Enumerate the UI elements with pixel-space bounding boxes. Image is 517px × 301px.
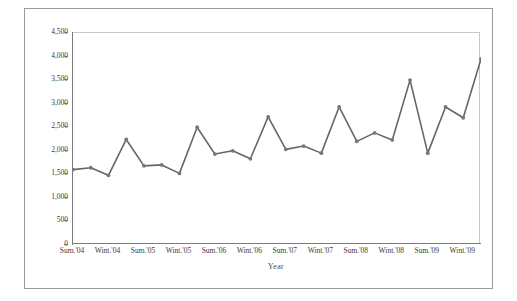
y-tick-label: 3,000 — [28, 99, 68, 107]
x-tick-label: Sum.'06 — [202, 246, 226, 256]
y-tick-mark — [64, 126, 68, 127]
plot-area — [72, 32, 480, 244]
series-line — [73, 59, 481, 175]
y-tick-mark — [64, 56, 68, 57]
y-tick-mark — [64, 79, 68, 80]
y-tick-mark — [64, 197, 68, 198]
y-tick-mark — [64, 150, 68, 151]
y-tick-label: 4,000 — [28, 52, 68, 60]
data-point-marker — [213, 152, 217, 156]
y-tick-mark — [64, 244, 68, 245]
data-point-marker — [355, 139, 359, 143]
data-point-marker — [195, 125, 199, 129]
data-point-marker — [266, 115, 270, 119]
y-tick-label: 2,000 — [28, 146, 68, 154]
data-point-marker — [408, 78, 412, 82]
data-point-marker — [373, 131, 377, 135]
x-tick-label: Wint.'07 — [308, 246, 333, 256]
data-point-marker — [284, 147, 288, 151]
data-point-marker — [248, 157, 252, 161]
data-point-marker — [426, 151, 430, 155]
data-point-marker — [73, 168, 75, 172]
x-axis-tick-labels: Sum.'04Wint.'04Sum.'05Wint.'05Sum.'06Win… — [72, 246, 480, 260]
x-tick-label: Sum.'09 — [415, 246, 439, 256]
x-tick-label: Sum.'04 — [60, 246, 84, 256]
x-tick-label: Wint.'08 — [379, 246, 404, 256]
data-point-marker — [319, 151, 323, 155]
data-point-marker — [479, 57, 481, 61]
y-tick-label: 1,000 — [28, 193, 68, 201]
y-tick-label: 4,500 — [28, 28, 68, 36]
data-point-marker — [160, 163, 164, 167]
x-tick-label: Sum.'05 — [131, 246, 155, 256]
data-point-marker — [124, 138, 128, 142]
x-tick-label: Wint.'04 — [95, 246, 120, 256]
data-point-marker — [178, 171, 182, 175]
data-point-marker — [461, 116, 465, 120]
sales-line-series — [73, 33, 481, 245]
y-tick-label: 500 — [28, 216, 68, 224]
x-tick-label: Wint.'05 — [166, 246, 191, 256]
data-point-marker — [107, 173, 111, 177]
data-point-marker — [390, 138, 394, 142]
chart-figure: Sales in Millions 4,5004,0003,5003,0002,… — [0, 0, 517, 301]
data-point-marker — [444, 105, 448, 109]
x-tick-label: Sum.'07 — [273, 246, 297, 256]
data-point-marker — [302, 144, 306, 148]
y-tick-label: 3,500 — [28, 75, 68, 83]
y-tick-mark — [64, 103, 68, 104]
data-point-marker — [337, 105, 341, 109]
x-axis-title: Year — [72, 262, 480, 271]
x-tick-label: Wint.'06 — [237, 246, 262, 256]
y-tick-mark — [64, 32, 68, 33]
x-tick-label: Wint.'09 — [450, 246, 475, 256]
y-axis-tick-labels: 4,5004,0003,5003,0002,5002,0001,5001,000… — [26, 32, 68, 244]
y-tick-mark — [64, 173, 68, 174]
y-tick-mark — [64, 220, 68, 221]
data-point-marker — [142, 164, 146, 168]
x-tick-label: Sum.'08 — [344, 246, 368, 256]
data-point-marker — [89, 166, 93, 170]
data-point-marker — [231, 149, 235, 153]
y-tick-label: 1,500 — [28, 169, 68, 177]
y-tick-label: 2,500 — [28, 122, 68, 130]
